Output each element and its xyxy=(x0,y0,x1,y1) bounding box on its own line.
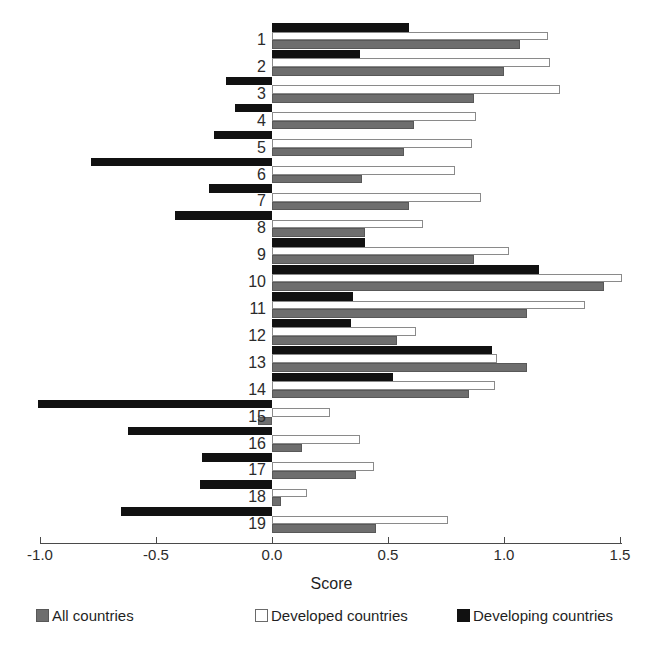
bar-all-countries-7 xyxy=(272,202,409,211)
bar-group: 18 xyxy=(0,480,663,507)
bar-developing-countries-6 xyxy=(91,158,272,167)
bar-developing-countries-15 xyxy=(38,400,272,409)
bar-group: 4 xyxy=(0,104,663,131)
bar-developing-countries-5 xyxy=(214,131,272,140)
x-axis-tick-label: 0.5 xyxy=(358,547,418,563)
legend-item-all-countries[interactable]: All countries xyxy=(36,607,134,624)
bar-all-countries-9 xyxy=(272,255,474,264)
bar-group: 16 xyxy=(0,427,663,454)
x-axis-tick-label: 1.0 xyxy=(474,547,534,563)
bar-all-countries-5 xyxy=(272,148,404,157)
bar-group: 15 xyxy=(0,400,663,427)
bar-developed-countries-7 xyxy=(272,193,481,202)
bar-all-countries-6 xyxy=(272,175,362,184)
category-label-9: 9 xyxy=(206,247,266,263)
category-label-1: 1 xyxy=(206,32,266,48)
x-axis-tick xyxy=(156,537,157,544)
bar-developed-countries-4 xyxy=(272,112,476,121)
bar-all-countries-4 xyxy=(272,121,414,130)
legend-item-developed-countries[interactable]: Developed countries xyxy=(255,607,408,624)
category-label-2: 2 xyxy=(206,59,266,75)
bar-developed-countries-5 xyxy=(272,139,472,148)
legend-item-developing-countries[interactable]: Developing countries xyxy=(457,607,613,624)
x-axis-tick xyxy=(272,537,273,544)
x-axis-tick-label: -0.5 xyxy=(126,547,186,563)
bar-all-countries-2 xyxy=(272,67,504,76)
category-label-3: 3 xyxy=(206,86,266,102)
bar-group: 13 xyxy=(0,346,663,373)
bar-all-countries-17 xyxy=(272,471,356,480)
bar-developed-countries-15 xyxy=(272,408,330,417)
bar-group: 7 xyxy=(0,184,663,211)
bar-all-countries-16 xyxy=(272,444,302,453)
bar-all-countries-10 xyxy=(272,282,604,291)
bar-group: 10 xyxy=(0,265,663,292)
legend-swatch-developed-countries-icon xyxy=(255,609,268,622)
chart-legend: All countries Developed countries Develo… xyxy=(0,607,663,637)
bar-developed-countries-1 xyxy=(272,32,548,41)
category-label-10: 10 xyxy=(206,274,266,290)
bar-all-countries-13 xyxy=(272,363,527,372)
bar-all-countries-1 xyxy=(272,40,520,49)
category-label-17: 17 xyxy=(206,462,266,478)
legend-swatch-developing-countries-icon xyxy=(457,609,470,622)
bar-developed-countries-19 xyxy=(272,516,448,525)
category-label-8: 8 xyxy=(206,220,266,236)
category-label-19: 19 xyxy=(206,516,266,532)
bar-developed-countries-17 xyxy=(272,462,374,471)
category-label-6: 6 xyxy=(206,167,266,183)
x-axis-tick-label: 1.5 xyxy=(590,547,650,563)
bar-developed-countries-3 xyxy=(272,85,560,94)
bar-developing-countries-4 xyxy=(235,104,272,113)
legend-label-developed-countries: Developed countries xyxy=(271,607,408,624)
category-label-14: 14 xyxy=(206,382,266,398)
x-axis-tick xyxy=(620,537,621,544)
bar-developed-countries-13 xyxy=(272,354,497,363)
bar-developed-countries-2 xyxy=(272,58,550,67)
x-axis-tick xyxy=(388,537,389,544)
bar-group: 5 xyxy=(0,131,663,158)
bar-developed-countries-8 xyxy=(272,220,423,229)
x-axis-tick-label: 0.0 xyxy=(242,547,302,563)
x-axis-tick xyxy=(40,537,41,544)
bar-developing-countries-13 xyxy=(272,346,492,355)
bar-all-countries-18 xyxy=(272,497,281,506)
legend-label-all-countries: All countries xyxy=(52,607,134,624)
bar-developing-countries-10 xyxy=(272,265,539,274)
legend-label-developing-countries: Developing countries xyxy=(473,607,613,624)
bar-developed-countries-11 xyxy=(272,301,585,310)
x-axis: -1.0-0.50.00.51.01.5 xyxy=(0,537,663,577)
bar-group: 14 xyxy=(0,373,663,400)
bar-developed-countries-10 xyxy=(272,274,622,283)
x-axis-tick xyxy=(504,537,505,544)
bar-all-countries-19 xyxy=(272,524,376,533)
category-label-11: 11 xyxy=(206,301,266,317)
bar-developing-countries-2 xyxy=(272,50,360,59)
category-label-5: 5 xyxy=(206,140,266,156)
bar-group: 12 xyxy=(0,319,663,346)
bar-group: 9 xyxy=(0,238,663,265)
bar-group: 11 xyxy=(0,292,663,319)
x-axis-title: Score xyxy=(0,575,663,593)
bar-developing-countries-12 xyxy=(272,319,351,328)
bar-all-countries-8 xyxy=(272,228,365,237)
bar-developing-countries-16 xyxy=(128,427,272,436)
bar-developed-countries-14 xyxy=(272,381,495,390)
category-label-7: 7 xyxy=(206,193,266,209)
bar-all-countries-3 xyxy=(272,94,474,103)
bar-group: 17 xyxy=(0,453,663,480)
category-label-16: 16 xyxy=(206,436,266,452)
bar-all-countries-12 xyxy=(272,336,397,345)
category-label-12: 12 xyxy=(206,328,266,344)
bar-all-countries-14 xyxy=(272,390,469,399)
bar-developed-countries-16 xyxy=(272,435,360,444)
bar-developed-countries-12 xyxy=(272,327,416,336)
legend-swatch-all-countries-icon xyxy=(36,609,49,622)
bar-group: 1 xyxy=(0,23,663,50)
bar-group: 3 xyxy=(0,77,663,104)
bar-developing-countries-14 xyxy=(272,373,393,382)
bar-group: 6 xyxy=(0,158,663,185)
bar-developed-countries-18 xyxy=(272,489,307,498)
category-label-4: 4 xyxy=(206,113,266,129)
bar-developing-countries-11 xyxy=(272,292,353,301)
